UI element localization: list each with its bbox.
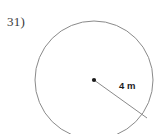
- radius-measurement-label: 4 m: [119, 80, 135, 91]
- center-point-dot: [92, 78, 96, 82]
- geometry-figure-container: 31) 4 m: [0, 0, 162, 134]
- circle-outline: [35, 21, 153, 134]
- circle-diagram-svg: 4 m: [0, 0, 162, 134]
